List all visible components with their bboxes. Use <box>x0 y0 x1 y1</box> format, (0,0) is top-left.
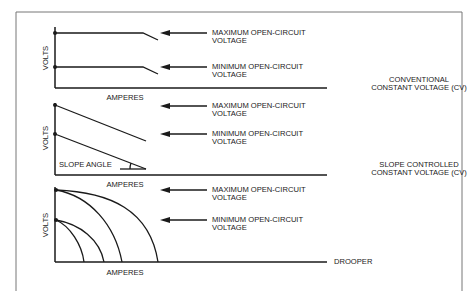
arrow-max <box>160 103 207 109</box>
panel-slope-controlled-cv: SLOPE ANGLE MAXIMUM OPEN-CIRCUIT VOLTAGE… <box>41 101 467 189</box>
max-voltage-curve <box>55 33 158 40</box>
y-axis-label: VOLTS <box>41 126 50 150</box>
power-source-characteristics-diagram: MAXIMUM OPEN-CIRCUIT VOLTAGE MINIMUM OPE… <box>0 0 474 291</box>
arrow-min <box>160 64 207 70</box>
arrow-min <box>160 131 207 137</box>
min-droop-curve-outer <box>56 220 104 262</box>
x-axis-label: AMPERES <box>106 268 143 277</box>
max-label-line2: VOLTAGE <box>212 36 247 45</box>
x-axis-label: AMPERES <box>106 93 143 102</box>
min-label-line2: VOLTAGE <box>212 137 247 146</box>
min-label-line2: VOLTAGE <box>212 70 247 79</box>
panel-title-line2: CONSTANT VOLTAGE (CV) <box>371 168 467 177</box>
max-voltage-slope <box>55 105 146 141</box>
min-droop-curve-inner <box>56 220 84 262</box>
min-label-line2: VOLTAGE <box>212 223 247 232</box>
x-axis-label: AMPERES <box>106 180 143 189</box>
max-label-line2: VOLTAGE <box>212 109 247 118</box>
min-voltage-curve <box>55 67 158 74</box>
panel-title-line2: CONSTANT VOLTAGE (CV) <box>371 83 467 92</box>
max-droop-curve-outer <box>56 190 158 262</box>
arrow-max <box>160 187 207 193</box>
y-axis-label: VOLTS <box>41 213 50 237</box>
max-label-line2: VOLTAGE <box>212 193 247 202</box>
diagram-frame <box>16 12 462 291</box>
panel-conventional-cv: MAXIMUM OPEN-CIRCUIT VOLTAGE MINIMUM OPE… <box>41 27 467 102</box>
y-axis-label: VOLTS <box>41 46 50 70</box>
slope-angle-label: SLOPE ANGLE <box>59 160 112 169</box>
arrow-min <box>160 217 207 223</box>
panel-title: DROOPER <box>334 257 373 266</box>
arrow-max <box>160 30 207 36</box>
panel-drooper: MAXIMUM OPEN-CIRCUIT VOLTAGE MINIMUM OPE… <box>41 185 373 277</box>
